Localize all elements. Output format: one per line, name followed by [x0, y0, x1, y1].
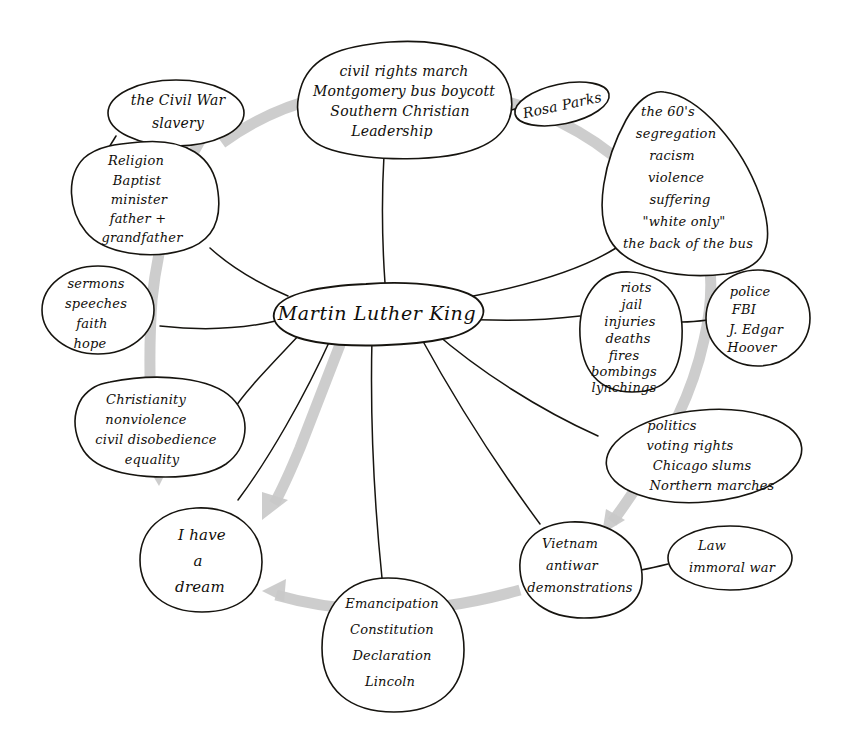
connector-center-to-civil-rights-march [383, 155, 385, 283]
node-label-riots-4: fires [608, 348, 640, 363]
node-label-law-1: immoral war [689, 560, 776, 575]
node-label-politics-3: Northern marches [649, 478, 775, 493]
flow-arrow-head-bottom-left [262, 579, 286, 602]
node-label-police-1: FBI [731, 302, 757, 317]
node-label-vietnam-1: antiwar [546, 558, 599, 573]
mind-map-svg: Martin Luther King civil rights march Mo… [0, 0, 851, 747]
node-label-christianity-0: Christianity [106, 392, 186, 407]
node-the-sixties[interactable]: the 60's segregation racism violence suf… [602, 92, 768, 276]
node-label-police-0: police [730, 284, 771, 299]
node-vietnam[interactable]: Vietnam antiwar demonstrations [520, 522, 642, 618]
node-label-riots-0: riots [620, 280, 651, 295]
node-label-sermons-2: faith [75, 316, 107, 331]
node-rosa-parks[interactable]: Rosa Parks [511, 74, 613, 133]
node-label-the-sixties-5: "white only" [643, 214, 726, 229]
node-sermons[interactable]: sermons speeches faith hope [42, 266, 154, 354]
connector-center-to-sermons [160, 320, 280, 328]
node-outline-law [668, 526, 792, 590]
node-label-the-sixties-6: the back of the bus [623, 236, 753, 251]
node-label-christianity-3: equality [125, 452, 180, 467]
node-label-civil-rights-march-0: civil rights march [340, 63, 469, 79]
node-police[interactable]: police FBI J. Edgar Hoover [706, 270, 810, 366]
node-label-riots-1: jail [619, 297, 643, 312]
node-label-vietnam-0: Vietnam [542, 536, 598, 551]
node-label-civil-rights-march-3: Leadership [350, 123, 433, 139]
node-label-i-have-a-dream-2: dream [175, 578, 225, 596]
connector-center-to-emancipation [371, 338, 382, 578]
node-label-the-civil-war-0: the Civil War [131, 92, 227, 108]
connector-center-to-religion [210, 248, 288, 296]
node-emancipation[interactable]: Emancipation Constitution Declaration Li… [322, 578, 464, 712]
node-label-sermons-1: speeches [65, 296, 127, 311]
flow-arrow-center-down [274, 324, 348, 504]
node-religion[interactable]: Religion Baptist minister father + grand… [71, 141, 218, 254]
node-martin-luther-king[interactable]: Martin Luther King [274, 283, 483, 346]
node-label-the-sixties-2: racism [649, 148, 695, 163]
node-label-the-sixties-4: suffering [649, 192, 710, 207]
node-the-civil-war[interactable]: the Civil War slavery [108, 80, 244, 146]
node-label-religion-3: father + [109, 211, 167, 226]
node-label-the-sixties-1: segregation [636, 126, 716, 141]
node-label-christianity-1: nonviolence [105, 412, 186, 427]
connector-center-to-vietnam [420, 336, 540, 524]
node-riots[interactable]: riots jail injuries deaths fires bombing… [580, 272, 682, 395]
node-label-civil-rights-march-2: Southern Christian [330, 103, 469, 119]
connector-vietnam-to-law [641, 564, 668, 570]
node-label-sermons-3: hope [73, 336, 106, 351]
node-label-politics-2: Chicago slums [653, 458, 752, 473]
node-civil-rights-march[interactable]: civil rights march Montgomery bus boycot… [298, 41, 512, 158]
node-label-religion-2: minister [111, 192, 168, 207]
node-label-the-sixties-0: the 60's [641, 104, 695, 119]
mind-map-canvas: Martin Luther King civil rights march Mo… [0, 0, 851, 747]
node-label-riots-5: bombings [591, 364, 657, 379]
node-label-emancipation-0: Emancipation [344, 596, 438, 611]
node-label-police-2: J. Edgar [726, 322, 784, 337]
node-label-sermons-0: sermons [67, 276, 124, 291]
node-label-religion-4: grandfather [101, 230, 183, 245]
node-christianity[interactable]: Christianity nonviolence civil disobedie… [75, 377, 245, 477]
node-label-i-have-a-dream-0: I have [177, 526, 226, 544]
node-i-have-a-dream[interactable]: I have a dream [140, 508, 262, 612]
node-outline-the-civil-war [108, 80, 244, 146]
node-label-religion-0: Religion [107, 153, 164, 168]
node-label-riots-3: deaths [605, 331, 650, 346]
node-label-martin-luther-king: Martin Luther King [277, 302, 476, 324]
node-label-emancipation-1: Constitution [350, 622, 434, 637]
connector-center-to-politics [432, 330, 598, 436]
node-label-police-3: Hoover [726, 340, 777, 355]
node-label-riots-2: injuries [604, 314, 655, 329]
node-label-civil-rights-march-1: Montgomery bus boycott [312, 83, 495, 99]
node-label-christianity-2: civil disobedience [95, 432, 216, 447]
node-label-i-have-a-dream-1: a [193, 552, 202, 570]
node-label-emancipation-3: Lincoln [364, 674, 415, 689]
node-outline-civil-rights-march [298, 41, 512, 158]
node-label-politics-1: voting rights [647, 438, 734, 453]
node-law[interactable]: Law immoral war [668, 526, 792, 590]
node-label-the-civil-war-1: slavery [152, 115, 205, 131]
node-label-riots-6: lynchings [592, 380, 657, 395]
node-label-law-0: Law [697, 538, 726, 553]
node-label-emancipation-2: Declaration [351, 648, 431, 663]
node-label-the-sixties-3: violence [648, 170, 704, 185]
node-label-religion-1: Baptist [112, 173, 162, 188]
node-label-politics-0: politics [647, 418, 697, 433]
connector-center-to-christianity [232, 334, 300, 412]
node-label-vietnam-2: demonstrations [527, 580, 633, 595]
